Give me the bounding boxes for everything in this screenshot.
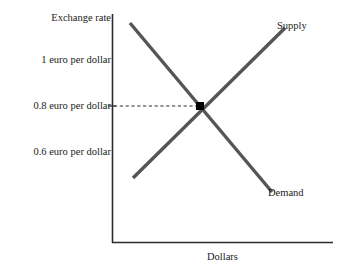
y-tick-label-low: 0.6 euro per dollar <box>33 147 111 158</box>
x-axis-title: Dollars <box>112 252 333 263</box>
demand-curve-label: Demand <box>268 188 304 199</box>
equilibrium-point-marker <box>196 102 204 110</box>
chart-canvas <box>0 0 349 269</box>
y-tick-label-high: 1 euro per dollar <box>41 55 111 66</box>
supply-curve-label: Supply <box>277 21 307 32</box>
supply-curve <box>133 28 285 178</box>
y-tick-label-equilibrium: 0.8 euro per dollar <box>33 101 111 112</box>
supply-demand-chart: Exchange rate 1 euro per dollar 0.8 euro… <box>0 0 349 269</box>
y-axis-title: Exchange rate <box>51 13 111 24</box>
